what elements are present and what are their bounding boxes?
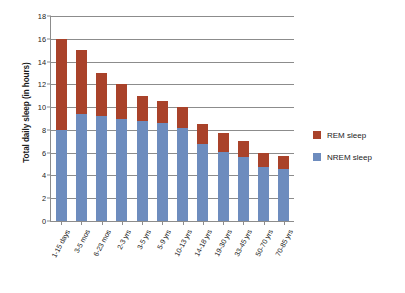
x-tick-mark [183,221,184,225]
bar-group[interactable] [238,16,249,221]
bar-segment-rem[interactable] [218,133,229,151]
x-tick-mark [243,221,244,225]
x-tick-label: 3-5 mos [73,228,93,255]
x-tick-label: 3-5 yrs [135,228,153,251]
y-tick-label: 6 [42,148,46,157]
x-tick-label: 33-45 yrs [233,228,255,258]
x-tick-label: 19-30 yrs [212,228,234,258]
bar-segment-rem[interactable] [76,50,87,114]
bar-segment-rem[interactable] [278,156,289,169]
bar-segment-rem[interactable] [177,107,188,128]
bar-segment-rem[interactable] [96,73,107,116]
y-tick-label: 10 [38,103,46,112]
bar-group[interactable] [278,16,289,221]
chart-legend: REM sleepNREM sleep [313,124,401,168]
bar-segment-rem[interactable] [238,141,249,157]
bar-segment-rem[interactable] [56,39,67,130]
x-tick-mark [284,221,285,225]
x-tick-label: 1-15 days [50,228,72,259]
bar-segment-nrem[interactable] [157,123,168,221]
sleep-stacked-bar-chart: Total daily sleep (in hours) 02468101214… [0,0,405,293]
x-tick-label: 70-85 yrs [273,228,295,258]
bar-segment-rem[interactable] [197,124,208,143]
bar-group[interactable] [177,16,188,221]
bar-segment-nrem[interactable] [278,169,289,221]
bar-segment-nrem[interactable] [76,114,87,221]
bar-segment-nrem[interactable] [218,152,229,221]
bar-segment-nrem[interactable] [197,144,208,221]
bar-segment-nrem[interactable] [96,116,107,221]
bar-group[interactable] [197,16,208,221]
bar-segment-nrem[interactable] [137,121,148,221]
y-tick-label: 0 [42,217,46,226]
bar-segment-nrem[interactable] [238,157,249,221]
x-tick-mark [264,221,265,225]
legend-swatch-icon [313,131,321,139]
legend-swatch-icon [313,153,321,161]
y-tick-label: 16 [38,34,46,43]
plot-area: 024681012141618 1-15 days3-5 mos6-23 mos… [50,16,294,222]
bar-group[interactable] [137,16,148,221]
bar-group[interactable] [96,16,107,221]
bar-group[interactable] [76,16,87,221]
x-tick-mark [162,221,163,225]
bars-layer [51,16,294,221]
y-tick-label: 18 [38,12,46,21]
bar-group[interactable] [56,16,67,221]
x-tick-label: 50-70 yrs [253,228,275,258]
x-tick-label: 10-13 yrs [172,228,194,258]
y-tick-label: 12 [38,80,46,89]
y-tick-label: 2 [42,194,46,203]
legend-item-label: NREM sleep [327,153,372,162]
legend-item[interactable]: REM sleep [313,124,401,146]
bar-segment-nrem[interactable] [258,167,269,221]
y-axis-title: Total daily sleep (in hours) [22,33,31,193]
bar-segment-rem[interactable] [157,101,168,123]
y-tick-label: 14 [38,57,46,66]
bar-segment-nrem[interactable] [116,119,127,222]
x-tick-label: 5-9 yrs [155,228,173,251]
x-tick-mark [102,221,103,225]
bar-segment-nrem[interactable] [177,128,188,221]
x-tick-mark [203,221,204,225]
y-tick-label: 4 [42,171,46,180]
bar-group[interactable] [258,16,269,221]
bar-segment-rem[interactable] [258,153,269,168]
bar-group[interactable] [218,16,229,221]
x-tick-mark [223,221,224,225]
legend-item[interactable]: NREM sleep [313,146,401,168]
bar-group[interactable] [157,16,168,221]
bar-group[interactable] [116,16,127,221]
legend-item-label: REM sleep [327,131,366,140]
x-tick-mark [142,221,143,225]
x-tick-mark [122,221,123,225]
x-tick-mark [61,221,62,225]
x-tick-label: 6-23 mos [91,228,113,258]
x-tick-label: 2-3 yrs [115,228,133,251]
bar-segment-nrem[interactable] [56,130,67,221]
y-tick-label: 8 [42,125,46,134]
x-tick-label: 14-18 yrs [192,228,214,258]
bar-segment-rem[interactable] [137,96,148,121]
bar-segment-rem[interactable] [116,84,127,118]
x-tick-mark [81,221,82,225]
